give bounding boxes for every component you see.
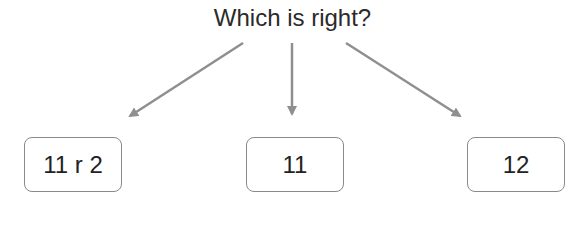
option-label: 11 r 2 [43, 151, 103, 179]
option-box-left: 11 r 2 [24, 137, 122, 192]
option-box-middle: 11 [246, 137, 344, 192]
arrow-left-icon [130, 43, 243, 116]
option-label: 11 [283, 151, 308, 179]
option-label: 12 [503, 151, 530, 179]
arrow-right-icon [346, 43, 460, 116]
option-box-right: 12 [467, 137, 565, 192]
